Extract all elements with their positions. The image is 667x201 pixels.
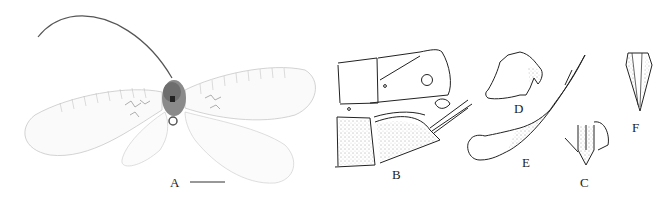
panel-label-b: B xyxy=(392,168,401,181)
panel-a-habitus: A xyxy=(0,0,320,201)
panel-label-c: C xyxy=(580,176,589,189)
panel-label-f: F xyxy=(632,121,639,134)
panel-label-e: E xyxy=(522,156,530,169)
lacewing-habitus-image xyxy=(0,0,320,201)
triangular-structure-drawing xyxy=(620,45,660,135)
panel-label-a: A xyxy=(170,176,179,189)
panel-f-triangular-structure: F xyxy=(620,45,660,135)
